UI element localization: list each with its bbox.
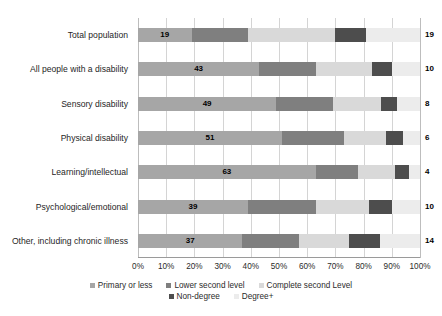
x-tick-label: 70% [327,262,343,271]
bar-segment[interactable] [344,131,386,145]
segment-value-label: 4 [425,168,429,176]
legend-row: Primary or lessLower second levelComplet… [83,281,359,290]
bar-segment[interactable] [259,62,315,76]
segment-value-label: 63 [222,168,231,176]
bar-segment[interactable] [276,97,332,111]
segment-value-label: 14 [425,237,434,245]
bar-row[interactable]: 4310 [138,62,420,76]
bar-segment[interactable]: 43 [138,62,259,76]
category-label: Psychological/emotional [36,202,128,212]
legend-swatch-icon [234,294,239,299]
bar-segment[interactable]: 19 [366,28,420,42]
bar-segment[interactable] [386,131,403,145]
category-axis-labels: Total populationAll people with a disabi… [0,18,134,258]
segment-value-label: 19 [160,31,169,39]
x-tick-label: 10% [158,262,174,271]
bar-segment[interactable]: 49 [138,97,276,111]
chart-legend: Primary or lessLower second levelComplet… [0,281,442,301]
segment-value-label: 43 [194,65,203,73]
category-label: Other, including chronic illness [12,236,128,246]
bar-segment[interactable] [333,97,381,111]
legend-item[interactable]: Degree+ [234,292,274,301]
x-tick-label: 30% [214,262,230,271]
legend-item[interactable]: Complete second Level [259,281,353,290]
segment-value-label: 6 [425,134,429,142]
category-label: Sensory disability [61,99,128,109]
legend-label: Primary or less [98,281,153,290]
category-label: Learning/intellectual [52,167,128,177]
legend-label: Non-degree [177,292,220,301]
gridline-100 [420,18,421,258]
segment-value-label: 39 [189,203,198,211]
bar-segment[interactable] [372,62,392,76]
bar-segment[interactable] [316,200,370,214]
bar-segment[interactable]: 8 [397,97,420,111]
segment-value-label: 37 [186,237,195,245]
category-label: Physical disability [61,133,128,143]
legend-swatch-icon [90,283,95,288]
bar-segment[interactable] [335,28,366,42]
bar-segment[interactable] [282,131,344,145]
bar-segment[interactable] [248,200,316,214]
segment-value-label: 19 [425,31,434,39]
segment-value-label: 8 [425,100,429,108]
bar-segment[interactable] [299,234,350,248]
bar-segment[interactable] [242,234,298,248]
segment-value-label: 10 [425,203,434,211]
bar-segment[interactable]: 63 [138,165,316,179]
x-tick-label: 60% [299,262,315,271]
segment-value-label: 51 [205,134,214,142]
x-axis-tick-labels: 0%10%20%30%40%50%60%70%80%90%100% [138,262,420,274]
bar-segment[interactable] [316,165,358,179]
segment-value-label: 10 [425,65,434,73]
bar-segment[interactable]: 6 [403,131,420,145]
legend-item[interactable]: Non-degree [169,292,220,301]
bar-segment[interactable]: 10 [392,200,420,214]
x-tick-label: 50% [271,262,287,271]
plot-area: 1919431049851663439103714 [138,18,420,258]
x-tick-label: 40% [243,262,259,271]
bar-segment[interactable]: 10 [392,62,420,76]
x-tick-label: 100% [410,262,431,271]
legend-row: Non-degreeDegree+ [162,292,281,301]
legend-item[interactable]: Lower second level [166,281,244,290]
bar-segment[interactable]: 37 [138,234,242,248]
bar-segment[interactable] [395,165,409,179]
bar-segment[interactable] [381,97,398,111]
bar-segment[interactable]: 39 [138,200,248,214]
bar-segment[interactable] [369,200,392,214]
bar-row[interactable]: 634 [138,165,420,179]
legend-label: Lower second level [174,281,244,290]
legend-swatch-icon [166,283,171,288]
bar-segment[interactable]: 51 [138,131,282,145]
legend-swatch-icon [259,283,264,288]
bar-segment[interactable] [358,165,395,179]
legend-item[interactable]: Primary or less [90,281,153,290]
x-tick-label: 0% [132,262,144,271]
bar-segment[interactable] [349,234,380,248]
bar-row[interactable]: 1919 [138,28,420,42]
segment-value-label: 49 [203,100,212,108]
bar-segment[interactable]: 14 [380,234,419,248]
category-label: All people with a disability [30,64,128,74]
bar-segment[interactable] [248,28,335,42]
bar-segment[interactable]: 19 [138,28,192,42]
bar-row[interactable]: 3714 [138,234,420,248]
bar-segment[interactable] [192,28,248,42]
category-label: Total population [68,30,128,40]
bar-row[interactable]: 516 [138,131,420,145]
bar-segment[interactable]: 4 [409,165,420,179]
x-tick-label: 80% [355,262,371,271]
bar-row[interactable]: 498 [138,97,420,111]
x-tick-label: 20% [186,262,202,271]
legend-label: Complete second Level [267,281,353,290]
bar-rows: 1919431049851663439103714 [138,18,420,258]
bar-segment[interactable] [316,62,372,76]
bar-row[interactable]: 3910 [138,200,420,214]
stacked-bar-chart: Total populationAll people with a disabi… [0,0,442,316]
x-tick-label: 90% [384,262,400,271]
legend-label: Degree+ [242,292,274,301]
legend-swatch-icon [169,294,174,299]
